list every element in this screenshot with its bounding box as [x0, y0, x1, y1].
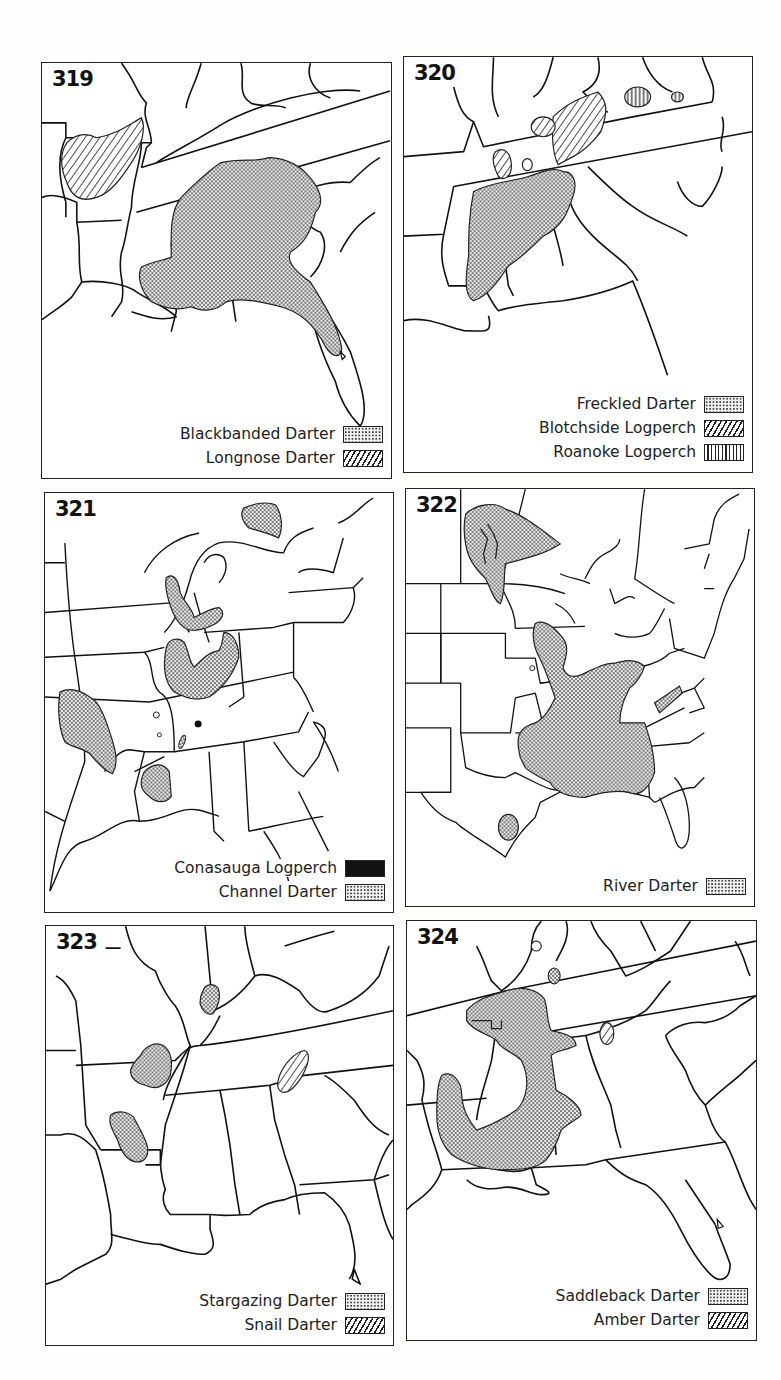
map-panel-320: 320 Freckled Darter Blotchside Logperch … — [403, 56, 753, 473]
legend-item: Snail Darter — [199, 1313, 385, 1337]
stipple-swatch-icon — [345, 884, 385, 901]
map-legend: Stargazing Darter Snail Darter — [199, 1289, 385, 1337]
map-panel-323: 323 Stargazing Darter Snail Darter — [45, 925, 394, 1346]
stipple-swatch-icon — [704, 396, 744, 413]
hatch-swatch-icon — [343, 450, 383, 467]
map-number: 320 — [414, 63, 455, 84]
hatch-swatch-icon — [708, 1312, 748, 1329]
map-legend: Saddleback Darter Amber Darter — [556, 1284, 748, 1332]
map-panel-324: 324 Saddleback Darter Amber Darter — [406, 920, 757, 1341]
map-legend: Freckled Darter Blotchside Logperch Roan… — [539, 392, 744, 464]
legend-item: Longnose Darter — [180, 446, 383, 470]
legend-label: Channel Darter — [219, 883, 337, 901]
hatch-swatch-icon — [345, 1317, 385, 1334]
map-legend: Blackbanded Darter Longnose Darter — [180, 422, 383, 470]
legend-item: Saddleback Darter — [556, 1284, 748, 1308]
legend-label: Amber Darter — [594, 1311, 700, 1329]
legend-label: Blackbanded Darter — [180, 425, 335, 443]
map-legend: River Darter — [603, 874, 746, 898]
legend-label: Stargazing Darter — [199, 1292, 337, 1310]
legend-label: Longnose Darter — [206, 449, 335, 467]
map-number: 319 — [52, 69, 93, 90]
stipple-swatch-icon — [706, 878, 746, 895]
map-number: 323 — [56, 932, 97, 953]
map-number: 324 — [417, 927, 458, 948]
legend-item: Channel Darter — [174, 880, 385, 904]
legend-item: Blackbanded Darter — [180, 422, 383, 446]
stipple-swatch-icon — [345, 1293, 385, 1310]
legend-label: Saddleback Darter — [556, 1287, 700, 1305]
solid-swatch-icon — [345, 860, 385, 877]
vertical-lines-swatch-icon — [704, 444, 744, 461]
legend-label: River Darter — [603, 877, 698, 895]
map-number: 321 — [55, 499, 96, 520]
map-322 — [406, 489, 754, 906]
legend-item: River Darter — [603, 874, 746, 898]
map-324 — [407, 921, 756, 1340]
map-legend: Conasauga Logperch Channel Darter — [174, 856, 385, 904]
map-panel-322: 322 River Darter — [405, 488, 755, 907]
map-number: 322 — [416, 495, 457, 516]
legend-label: Conasauga Logperch — [174, 859, 337, 877]
legend-item: Blotchside Logperch — [539, 416, 744, 440]
map-323 — [46, 926, 393, 1345]
legend-item: Amber Darter — [556, 1308, 748, 1332]
map-panel-321: 321 Conasauga Logperch Channel Darter — [44, 492, 394, 913]
legend-item: Roanoke Logperch — [539, 440, 744, 464]
stipple-swatch-icon — [708, 1288, 748, 1305]
legend-label: Freckled Darter — [577, 395, 696, 413]
hatch-swatch-icon — [704, 420, 744, 437]
map-panel-319: 319 Blackbanded Darter Longnose Darter — [41, 62, 392, 479]
legend-item: Freckled Darter — [539, 392, 744, 416]
legend-label: Roanoke Logperch — [553, 443, 696, 461]
map-319 — [42, 63, 391, 478]
map-321 — [45, 493, 393, 912]
legend-label: Snail Darter — [245, 1316, 338, 1334]
legend-label: Blotchside Logperch — [539, 419, 696, 437]
legend-item: Stargazing Darter — [199, 1289, 385, 1313]
legend-item: Conasauga Logperch — [174, 856, 385, 880]
stipple-swatch-icon — [343, 426, 383, 443]
